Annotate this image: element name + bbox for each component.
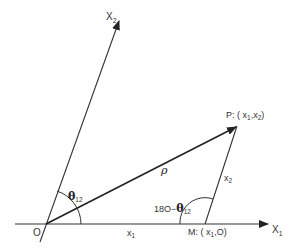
point-m-label: M: ( x1,O) [188,227,227,238]
x1-axis-label: X1 [272,224,283,237]
supplement-angle-label: 18O−θ12 [154,202,191,215]
x2-segment-label: x2 [224,173,233,184]
theta-label: θ12 [68,190,83,203]
diagram-canvas: X2 X1 O P: ( x1,x2) M: ( x1,O) ρ x2 x1 θ… [0,0,295,250]
rho-vector [46,127,236,224]
rho-label: ρ [160,164,168,177]
point-p-label: P: ( x1,x2) [226,110,264,121]
x2-axis-label: X2 [106,11,117,24]
origin-label: O [33,227,41,238]
x1-segment-label: x1 [127,228,136,239]
x2-axis [40,21,119,242]
